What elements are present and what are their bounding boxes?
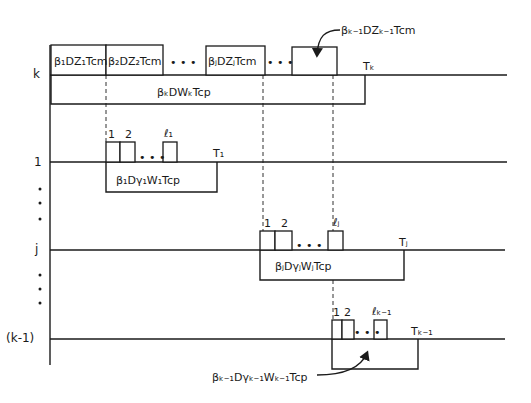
pulse-label: 2	[344, 306, 351, 319]
row-ellipsis-dots	[39, 188, 42, 305]
pulse-1	[106, 142, 120, 162]
compute-label-j: βⱼDγⱼWⱼTcp	[275, 260, 332, 273]
row-1: 1 2 ℓ₁ • • • β₁Dγ₁W₁Tcp T₁	[50, 127, 507, 192]
pulse-label: 1	[264, 217, 271, 230]
comm-box-j-label: βⱼDZⱼTcm	[208, 55, 257, 68]
pulse-label: ℓₖ₋₁	[371, 305, 391, 318]
ellipsis: • • •	[170, 56, 196, 69]
pulse-2	[342, 320, 354, 339]
pulse-label: 1	[108, 128, 115, 141]
compute-box-k-1	[332, 339, 418, 369]
pulse-label: 2	[281, 217, 288, 230]
row-label-k: k	[33, 67, 40, 81]
ellipsis: • • •	[267, 56, 293, 69]
timing-diagram: k 1 j (k-1) β₁DZ₁Tcm β₂DZ₂Tcm βⱼDZⱼTcm •…	[0, 0, 531, 403]
row-j: 1 2 ℓⱼ • • • βⱼDγⱼWⱼTcp Tⱼ	[50, 216, 505, 280]
compute-label-1: β₁Dγ₁W₁Tcp	[116, 174, 180, 187]
row-label-j: j	[34, 242, 38, 256]
comm-box-k-1	[292, 47, 337, 75]
pulse-2	[120, 142, 135, 162]
pulse-l	[328, 231, 343, 250]
end-label-k: Tₖ	[362, 60, 374, 73]
pulse-label: ℓ₁	[163, 127, 173, 140]
row-label-1: 1	[34, 155, 42, 169]
callout-arrow	[317, 353, 367, 375]
comm-box-2-label: β₂DZ₂Tcm	[108, 55, 161, 68]
row-k-1: 1 2 ℓₖ₋₁ • • • Tₖ₋₁ βₖ₋₁Dγₖ₋₁Wₖ₋₁Tcp	[50, 305, 505, 384]
row-k: β₁DZ₁Tcm β₂DZ₂Tcm βⱼDZⱼTcm • • • • • • β…	[50, 24, 507, 104]
pulse-label: 1	[333, 306, 340, 319]
callout-label-k: βₖ₋₁DZₖ₋₁Tcm	[341, 24, 415, 37]
end-label-j: Tⱼ	[398, 236, 408, 249]
ellipsis: • • •	[354, 326, 380, 339]
callout-label-k-1: βₖ₋₁Dγₖ₋₁Wₖ₋₁Tcp	[212, 371, 307, 384]
pulse-2	[275, 231, 292, 250]
pulse-label: ℓⱼ	[332, 216, 340, 229]
comm-box-1-label: β₁DZ₁Tcm	[54, 55, 107, 68]
pulse-label: 2	[125, 128, 132, 141]
end-label-1: T₁	[212, 147, 224, 160]
pulse-1	[260, 231, 275, 250]
compute-label-k: βₖDWₖTcp	[157, 86, 211, 99]
pulse-1	[332, 320, 342, 339]
ellipsis: • • •	[139, 151, 165, 164]
ellipsis: • • •	[296, 239, 322, 252]
row-label-k-1: (k-1)	[6, 331, 34, 345]
end-label-k-1: Tₖ₋₁	[410, 325, 433, 338]
